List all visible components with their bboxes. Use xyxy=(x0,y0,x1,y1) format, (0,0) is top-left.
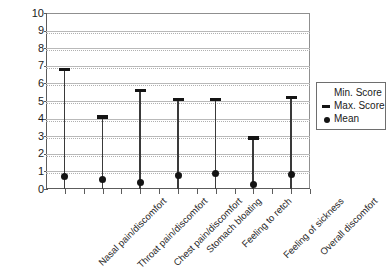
blank-marker-icon xyxy=(321,87,333,98)
y-tick-mark xyxy=(44,189,48,190)
x-tick-mark xyxy=(310,189,311,194)
x-tick-mark-center xyxy=(103,189,104,194)
x-tick-mark xyxy=(197,189,198,194)
y-tick-label: 6 xyxy=(4,78,44,89)
max-score-marker xyxy=(59,68,70,72)
gridline-dotted xyxy=(46,68,310,69)
x-tick-mark xyxy=(84,189,85,194)
dash-marker-icon xyxy=(321,100,333,111)
mean-marker xyxy=(288,171,295,178)
plot-area xyxy=(46,13,310,189)
gridline xyxy=(46,31,310,32)
max-score-marker xyxy=(135,89,146,93)
dot-marker-icon xyxy=(321,113,333,124)
y-tick-label: 0 xyxy=(4,184,44,195)
x-tick-mark xyxy=(159,189,160,194)
gridline-dotted xyxy=(46,33,310,34)
range-line xyxy=(139,90,141,189)
y-tick-label: 1 xyxy=(4,166,44,177)
mean-marker xyxy=(61,173,68,180)
max-score-marker xyxy=(210,98,221,102)
x-tick-mark-center xyxy=(253,189,254,194)
y-tick-label: 9 xyxy=(4,25,44,36)
y-tick-label: 5 xyxy=(4,96,44,107)
gridline xyxy=(46,48,310,49)
x-axis-label: Feeling of sickness xyxy=(282,196,346,260)
y-tick-label: 8 xyxy=(4,43,44,54)
legend-label: Mean xyxy=(334,112,359,125)
legend-label: Max. Score xyxy=(334,99,385,112)
y-tick-label: 7 xyxy=(4,60,44,71)
max-score-marker xyxy=(286,96,297,100)
plot-border-top xyxy=(46,13,310,14)
y-tick-label: 10 xyxy=(4,8,44,19)
x-tick-mark-center xyxy=(140,189,141,194)
max-score-marker xyxy=(248,136,259,140)
gridline xyxy=(46,83,310,84)
mean-marker xyxy=(250,181,257,188)
legend-item: Max. Score xyxy=(321,99,381,112)
x-tick-mark-center xyxy=(178,189,179,194)
x-tick-mark xyxy=(121,189,122,194)
mean-marker xyxy=(212,170,219,177)
legend-item: Mean xyxy=(321,112,381,125)
x-tick-mark-center xyxy=(65,189,66,194)
gridline-dotted xyxy=(46,85,310,86)
x-tick-mark-center xyxy=(291,189,292,194)
y-tick-label: 3 xyxy=(4,131,44,142)
mean-marker xyxy=(99,176,106,183)
legend-item: Min. Score xyxy=(321,86,381,99)
max-score-marker xyxy=(97,115,108,119)
x-tick-mark-center xyxy=(216,189,217,194)
y-tick-label: 4 xyxy=(4,113,44,124)
x-tick-mark xyxy=(235,189,236,194)
gridline-dotted xyxy=(46,50,310,51)
range-line xyxy=(64,69,66,189)
gridline xyxy=(46,66,310,67)
x-tick-mark xyxy=(272,189,273,194)
legend-label: Min. Score xyxy=(334,86,382,99)
mean-marker xyxy=(175,172,182,179)
max-score-marker xyxy=(173,98,184,102)
y-axis: 012345678910 xyxy=(0,13,44,189)
y-tick-label: 2 xyxy=(4,148,44,159)
mean-marker xyxy=(137,179,144,186)
min-max-mean-range-chart: 012345678910 Nasal pain/discomfortThroat… xyxy=(0,0,389,279)
chart-legend: Min. ScoreMax. ScoreMean xyxy=(316,82,386,130)
x-axis-label: Nasal pain/discomfort xyxy=(97,196,169,268)
